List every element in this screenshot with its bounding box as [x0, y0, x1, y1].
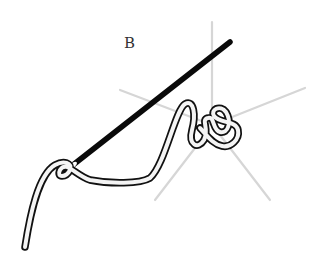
needle-icon	[64, 42, 230, 172]
needle-knot-illustration	[0, 0, 331, 267]
thread	[25, 103, 238, 247]
